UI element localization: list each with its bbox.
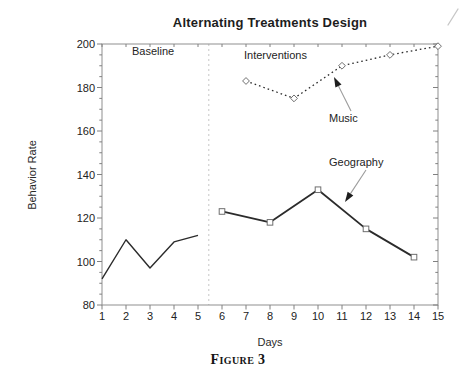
data-point-marker (363, 226, 369, 232)
x-tick-label: 15 (432, 310, 444, 322)
geography-series-label: Geography (329, 156, 383, 168)
axis-ticks (97, 44, 438, 310)
figure-caption: Figure 3 (138, 352, 338, 368)
x-tick-label: 11 (336, 310, 347, 322)
x-tick-label: 7 (243, 310, 249, 322)
x-tick-label: 8 (267, 310, 273, 322)
x-tick-label: 12 (360, 310, 372, 322)
data-point-marker (219, 209, 225, 215)
x-tick-label: 5 (195, 310, 201, 322)
y-tick-label: 120 (77, 212, 95, 224)
series-geography-markers (219, 187, 417, 260)
series-geography-line (222, 190, 414, 257)
music-arrow (334, 77, 351, 111)
x-tick-label: 10 (312, 310, 324, 322)
tick-labels: 1234567891011121314158010012014016018020… (77, 38, 444, 322)
y-tick-label: 80 (83, 299, 95, 311)
x-tick-label: 9 (291, 310, 297, 322)
arrow-head (334, 77, 342, 87)
data-point-marker (267, 220, 273, 226)
x-tick-label: 6 (219, 310, 225, 322)
scan-artifact (448, 9, 458, 25)
y-tick-label: 200 (77, 38, 95, 50)
music-series-label: Music (329, 112, 358, 124)
x-axis-label: Days (102, 336, 438, 348)
x-tick-label: 14 (408, 310, 420, 322)
data-point-marker (411, 254, 417, 260)
series-baseline-line (102, 235, 198, 279)
data-point-marker (339, 62, 346, 69)
chart-plot-area: 1234567891011121314158010012014016018020… (0, 0, 469, 376)
x-tick-label: 3 (147, 310, 153, 322)
arrow-shaft (338, 86, 351, 111)
figure-3-chart: Alternating Treatments Design Behavior R… (0, 0, 469, 376)
interventions-phase-label: Interventions (244, 49, 307, 61)
data-point-marker (291, 95, 298, 102)
y-tick-label: 100 (77, 256, 95, 268)
x-tick-label: 13 (384, 310, 396, 322)
data-point-marker (315, 187, 321, 193)
geography-arrow (345, 170, 366, 202)
arrow-head (345, 192, 353, 202)
x-tick-label: 1 (99, 310, 105, 322)
baseline-phase-label: Baseline (132, 45, 174, 57)
y-tick-label: 140 (77, 169, 95, 181)
x-tick-label: 4 (171, 310, 177, 322)
y-tick-label: 180 (77, 82, 95, 94)
x-tick-label: 2 (123, 310, 129, 322)
data-point-marker (243, 78, 250, 85)
data-point-marker (387, 51, 394, 58)
arrow-shaft (350, 170, 366, 194)
y-tick-label: 160 (77, 125, 95, 137)
